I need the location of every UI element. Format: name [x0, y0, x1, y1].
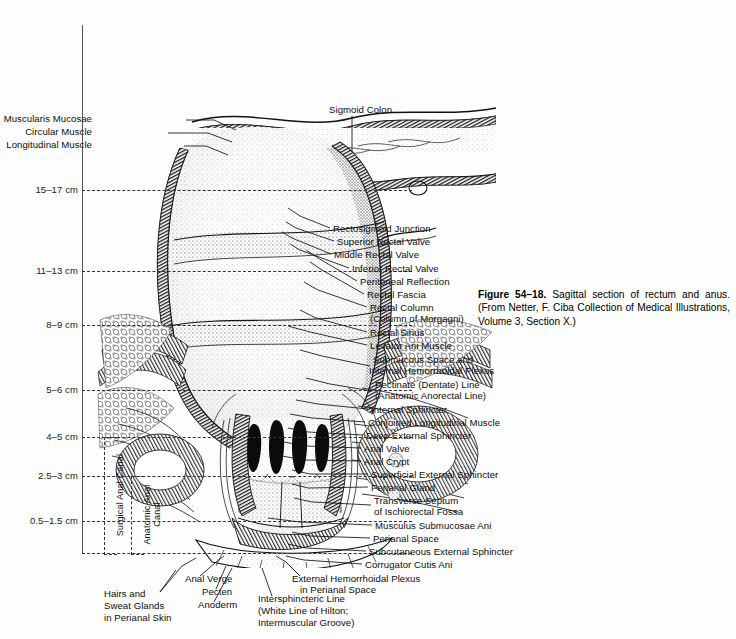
anatomy-label: Superficial External Sphincter	[371, 469, 498, 481]
bracket-label: Anatomic Anal Canal	[142, 476, 163, 553]
anatomy-label: Corrugator Cutis Ani	[365, 559, 452, 571]
anatomy-label: Sigmoid Colon	[329, 104, 392, 116]
anatomy-label: Hairs and	[104, 588, 146, 600]
anatomy-label: Internal Sphincter	[371, 404, 447, 416]
anatomy-label: Anal Crypt	[364, 456, 409, 468]
anatomy-label: Perianal Gland	[371, 482, 435, 494]
anatomy-label: of Ischiorectal Fossa	[374, 506, 463, 518]
anatomy-label: Rectal Fascia	[367, 289, 426, 301]
anatomy-label: Perianal Space	[373, 533, 439, 545]
anatomy-label: Anal Valve	[364, 443, 410, 455]
measurement-axis	[82, 25, 83, 553]
scale-dashed-line	[82, 325, 412, 326]
anatomy-label: Rectal Sinus	[370, 327, 424, 339]
anatomy-label: Intersphincteric Line	[258, 593, 345, 605]
anatomy-label: Conjoined Longitudinal Muscle	[368, 417, 500, 429]
anatomy-label: Deep External Sphincter	[366, 430, 471, 442]
anatomy-label: Intermuscular Groove)	[258, 617, 355, 629]
anatomy-label: Muscularis Mucosae	[4, 113, 92, 125]
anatomy-label: (Column of Morgagni)	[370, 313, 464, 325]
scale-label: 11–13 cm	[4, 265, 78, 276]
figure-container: 15–17 cm11–13 cm8–9 cm5–6 cm4–5 cm2.5–3 …	[0, 0, 736, 639]
anatomy-label: External Hemorrhoidal Plexus	[292, 573, 420, 585]
scale-label: 15–17 cm	[4, 184, 78, 195]
scale-label: 0.5–1.5 cm	[4, 515, 78, 526]
anatomy-label: Rectal Column	[370, 302, 434, 314]
anatomy-label: Inferior Rectal Valve	[352, 263, 439, 275]
scale-dashed-line	[82, 390, 412, 391]
anatomy-label: Musculus Submucosae Ani	[375, 520, 491, 532]
scale-label: 5–6 cm	[4, 384, 78, 395]
anatomy-label: Pectinate (Dentate) Line	[375, 379, 480, 391]
caption-figure-number: Figure 54–18.	[478, 289, 546, 300]
anatomy-label: Anoderm	[198, 599, 237, 611]
anatomy-label: Longitudinal Muscle	[6, 139, 92, 151]
anatomy-label: Subcutaneous External Sphincter	[369, 546, 513, 558]
anatomy-label: Peritoneal Reflection	[360, 276, 450, 288]
anatomy-label: Transverse Septum	[374, 495, 458, 507]
anatomy-label: Internal Hemorrhoidal Plexus	[369, 365, 494, 377]
anatomy-label: Pecten	[202, 586, 232, 598]
anatomy-label: Submucous Space and	[373, 354, 473, 366]
anatomy-label: Sweat Glands	[104, 600, 164, 612]
anatomy-label: (White Line of Hilton;	[258, 605, 348, 617]
scale-label: 8–9 cm	[4, 319, 78, 330]
anatomy-label: in Perianal Skin	[104, 612, 171, 624]
anatomy-label: Anal Verge	[185, 573, 232, 585]
anatomy-label: Middle Rectal Valve	[334, 249, 419, 261]
bracket-label: Surgical Anal Canal	[115, 437, 125, 553]
anatomy-label: Superior Rectal Valve	[337, 236, 430, 248]
anatomy-label: (Anatomic Anorectal Line)	[375, 390, 486, 402]
scale-label: 4–5 cm	[4, 431, 78, 442]
scale-dashed-line	[82, 437, 412, 438]
anatomy-label: Levator Ani Muscle	[370, 340, 452, 352]
scale-label: 2.5–3 cm	[4, 470, 78, 481]
scale-dashed-line	[82, 190, 412, 191]
figure-caption: Figure 54–18. Sagittal section of rectum…	[478, 288, 730, 328]
anatomy-label: Rectosigmoid Junction	[333, 223, 431, 235]
anatomy-label: Circular Muscle	[25, 126, 92, 138]
